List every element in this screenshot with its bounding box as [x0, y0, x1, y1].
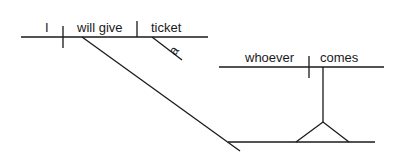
- pedestal-triangle: [296, 122, 349, 142]
- word-sub-subject: whoever: [244, 50, 295, 65]
- indirect-object-slant: [82, 37, 240, 151]
- word-subject: I: [45, 20, 49, 35]
- word-modifier: a: [166, 42, 183, 58]
- word-sub-verb: comes: [320, 50, 359, 65]
- sentence-diagram: I will give ticket a whoever comes: [0, 0, 400, 165]
- word-direct-object: ticket: [151, 20, 182, 35]
- word-verb: will give: [76, 20, 123, 35]
